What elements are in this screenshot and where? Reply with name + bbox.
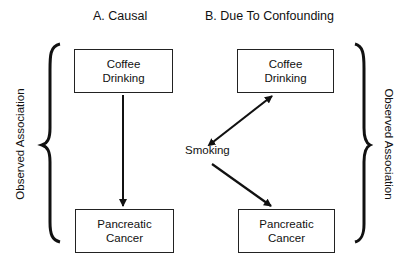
smoking-cancer-arrow	[212, 164, 271, 206]
left-brace-icon	[42, 44, 60, 242]
diagram-lines	[0, 0, 408, 264]
smoking-coffee-arrow	[213, 96, 272, 142]
right-brace-icon	[355, 44, 370, 242]
